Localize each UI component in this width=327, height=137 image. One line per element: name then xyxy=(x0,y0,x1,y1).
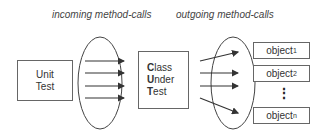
object-n-sub: n xyxy=(293,112,297,119)
cut-est: est xyxy=(153,86,166,97)
object-1-name: object xyxy=(266,45,293,56)
object-2-box: object2 xyxy=(253,65,310,82)
class-under-test-box: Class Under Test xyxy=(138,51,189,109)
incoming-arrows xyxy=(85,61,124,98)
ellipsis-dots: ⋮ xyxy=(277,86,291,100)
outgoing-label: outgoing method-calls xyxy=(176,9,274,20)
object-n-name: object xyxy=(266,110,293,121)
incoming-label: incoming method-calls xyxy=(52,9,152,20)
unit-test-box: Unit Test xyxy=(17,60,73,101)
outgoing-ellipse xyxy=(211,37,255,129)
outgoing-arrows xyxy=(200,52,238,113)
object-2-sub: 2 xyxy=(293,70,297,77)
unit-test-line1: Unit xyxy=(36,69,54,81)
object-n-box: objectn xyxy=(253,107,310,124)
unit-test-line2: Test xyxy=(36,81,54,93)
cut-lass: lass xyxy=(154,62,172,73)
incoming-ellipse xyxy=(78,37,122,129)
object-2-name: object xyxy=(266,68,293,79)
cut-nder: nder xyxy=(154,74,174,85)
object-1-sub: 1 xyxy=(293,47,297,54)
object-1-box: object1 xyxy=(253,42,310,59)
